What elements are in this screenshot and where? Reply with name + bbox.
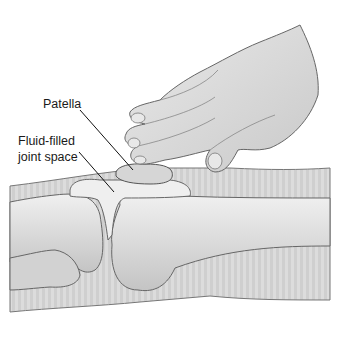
fingernail [131, 113, 145, 123]
patella-label: Patella [43, 96, 81, 112]
hand [125, 25, 318, 172]
fingernail [128, 138, 140, 148]
fibula-bone [10, 250, 80, 290]
patella-bone [116, 164, 172, 184]
thumbnail [208, 153, 222, 169]
joint-space-label-line1: Fluid-filled [18, 133, 78, 149]
joint-space-label-line2: joint space [18, 149, 78, 165]
illustration-canvas [0, 0, 344, 343]
fingernail [134, 156, 146, 164]
joint-space-label: Fluid-filled joint space [18, 133, 78, 165]
knee-illustration: Patella Fluid-filled joint space [0, 0, 344, 343]
